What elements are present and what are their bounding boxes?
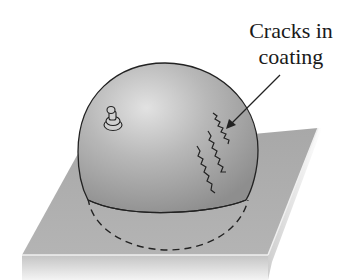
plate-front-face (22, 255, 268, 280)
cracks-annotation-label: Cracks in coating (236, 18, 346, 70)
cracks-label-line1: Cracks in (236, 18, 346, 44)
cracks-label-line2: coating (236, 44, 346, 70)
coated-dome (78, 63, 258, 213)
dome-shell (78, 63, 258, 213)
